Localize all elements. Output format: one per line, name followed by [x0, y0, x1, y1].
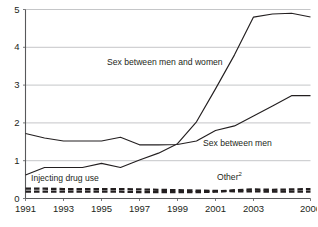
y-axis-label-4: 4	[6, 42, 20, 52]
line-chart: 012345 19911993199519971999200120032006 …	[0, 0, 317, 227]
x-axis-label-1991: 1991	[6, 204, 46, 214]
footnote-marker: 2	[239, 171, 242, 177]
y-axis-label-1: 1	[6, 156, 20, 166]
x-axis-label-1999: 1999	[158, 204, 198, 214]
x-axis-label-2006: 2006	[291, 204, 318, 214]
y-axis-label-0: 0	[6, 194, 20, 204]
series-label-sex-between-men-and-women: Sex between men and women	[107, 58, 223, 67]
x-axis-label-1993: 1993	[44, 204, 84, 214]
y-axis-label-3: 3	[6, 80, 20, 90]
chart-plot-area	[0, 0, 317, 227]
data-series	[26, 13, 311, 192]
x-axis-label-1995: 1995	[82, 204, 122, 214]
series-label-injecting-drug-use: Injecting drug use	[31, 174, 99, 183]
x-axis-label-2003: 2003	[234, 204, 274, 214]
x-axis-label-1997: 1997	[120, 204, 160, 214]
x-axis-label-2001: 2001	[196, 204, 236, 214]
series-label-other: Other2	[217, 173, 242, 182]
series-line-sex-between-men-and-women	[26, 13, 311, 175]
series-label-sex-between-men: Sex between men	[203, 139, 272, 148]
y-axis-label-5: 5	[6, 5, 20, 15]
y-axis-label-2: 2	[6, 118, 20, 128]
